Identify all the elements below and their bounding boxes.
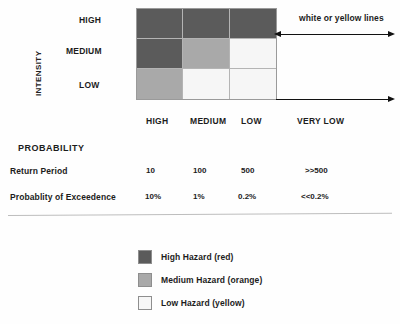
matrix-cell-medium-high xyxy=(137,39,183,69)
legend-label-high-hazard: High Hazard (red) xyxy=(161,252,234,262)
matrix-cell-low-high xyxy=(137,69,183,99)
matrix-cell-medium-medium xyxy=(183,39,229,69)
matrix-cell-high-high xyxy=(137,9,183,39)
column-header-very-low: VERY LOW xyxy=(297,116,344,126)
table-cell-exceedence-medium: 1% xyxy=(193,192,205,201)
matrix-cell-low-low xyxy=(230,69,276,99)
matrix-cell-low-medium xyxy=(183,69,229,99)
column-header-low: LOW xyxy=(241,116,262,126)
matrix-cell-high-medium xyxy=(183,9,229,39)
matrix-cell-medium-low xyxy=(230,39,276,69)
column-header-high: HIGH xyxy=(146,116,168,126)
upper-arrow-head-left xyxy=(274,31,281,37)
hazard-matrix-figure: INTENSITY HIGH MEDIUM LOW white or yello… xyxy=(0,0,400,324)
table-cell-return-period-high: 10 xyxy=(146,166,155,175)
horizontal-divider xyxy=(8,213,392,216)
table-cell-return-period-very-low: >>500 xyxy=(305,166,328,175)
column-header-medium: MEDIUM xyxy=(190,116,226,126)
table-cell-return-period-low: 500 xyxy=(241,166,254,175)
legend-label-medium-hazard: Medium Hazard (orange) xyxy=(161,275,262,285)
table-cell-exceedence-low: 0.2% xyxy=(238,192,256,201)
legend-swatch-medium-hazard xyxy=(138,273,152,287)
annotation-white-or-yellow-lines: white or yellow lines xyxy=(299,13,384,23)
legend-swatch-high-hazard xyxy=(138,250,152,264)
upper-arrow-line xyxy=(281,34,390,35)
table-cell-return-period-medium: 100 xyxy=(193,166,206,175)
table-row-label-probability-of-exceedence: Probablity of Exceedence xyxy=(10,192,116,202)
lower-arrow-line xyxy=(276,99,390,100)
matrix-cell-high-low xyxy=(230,9,276,39)
intensity-label-high: HIGH xyxy=(79,15,101,25)
probability-section-label: PROBABILITY xyxy=(18,143,85,153)
hazard-matrix-grid xyxy=(136,8,277,100)
legend-swatch-low-hazard xyxy=(138,296,152,310)
table-cell-exceedence-very-low: <<0.2% xyxy=(301,192,329,201)
legend-item-medium-hazard: Medium Hazard (orange) xyxy=(138,273,262,287)
lower-arrow-head-right xyxy=(388,96,395,102)
table-cell-exceedence-high: 10% xyxy=(145,192,161,201)
intensity-label-low: LOW xyxy=(79,80,99,90)
intensity-label-medium: MEDIUM xyxy=(66,46,102,56)
legend-item-low-hazard: Low Hazard (yellow) xyxy=(138,296,245,310)
y-axis-title: INTENSITY xyxy=(34,51,43,96)
upper-arrow-head-right xyxy=(388,31,395,37)
legend-label-low-hazard: Low Hazard (yellow) xyxy=(161,298,245,308)
legend-item-high-hazard: High Hazard (red) xyxy=(138,250,234,264)
table-row-label-return-period: Return Period xyxy=(10,166,68,176)
